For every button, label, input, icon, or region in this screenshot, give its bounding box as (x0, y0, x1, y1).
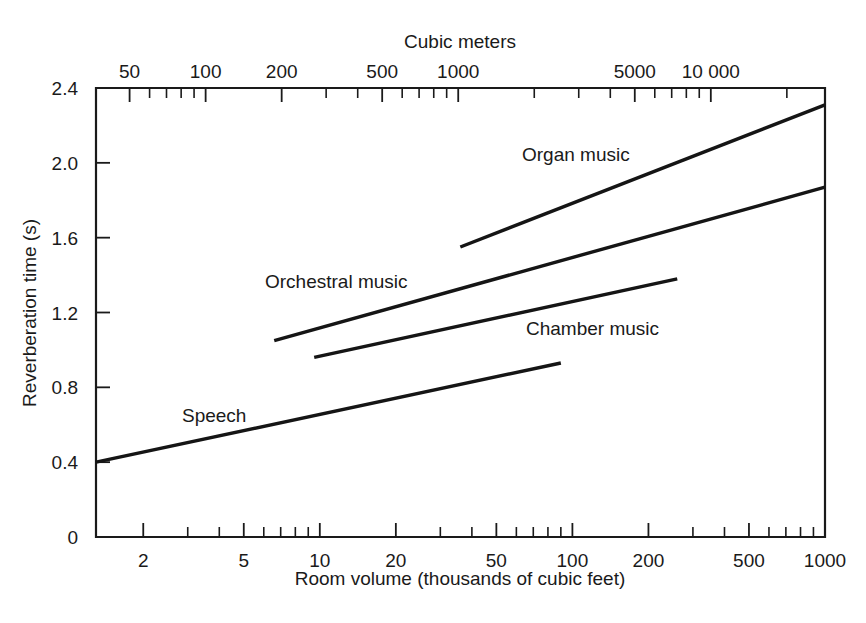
y-tick-label: 0.4 (52, 452, 79, 473)
top-tick-label: 1000 (437, 61, 479, 82)
top-axis-tick-labels: 501002005001000500010 000 (119, 61, 740, 82)
x-tick-label: 2 (138, 550, 149, 571)
series-line-organ-music (460, 105, 825, 247)
y-axis-title: Reverberation time (s) (19, 219, 40, 407)
top-tick-label: 500 (366, 61, 398, 82)
top-tick-label: 50 (119, 61, 140, 82)
top-tick-label: 5000 (614, 61, 656, 82)
bottom-axis-ticks (143, 523, 825, 537)
axis-frame (96, 88, 825, 537)
y-tick-label: 2.4 (52, 78, 79, 99)
top-tick-label: 200 (266, 61, 298, 82)
y-tick-label: 0 (67, 527, 78, 548)
series-label-chamber: Chamber music (526, 318, 659, 339)
y-tick-label: 1.2 (52, 303, 78, 324)
y-tick-label: 0.8 (52, 377, 78, 398)
series-label-orchestral: Orchestral music (265, 271, 408, 292)
x-tick-label: 200 (633, 550, 665, 571)
y-tick-label: 1.6 (52, 228, 78, 249)
top-axis-ticks (130, 88, 787, 102)
x-axis-title: Room volume (thousands of cubic feet) (295, 568, 626, 589)
y-tick-label: 2.0 (52, 153, 78, 174)
x-tick-label: 5 (238, 550, 249, 571)
chart-container: 501002005001000500010 000 25102050100200… (0, 0, 866, 623)
y-axis-tick-labels: 00.40.81.21.62.02.4 (52, 78, 79, 548)
series-label-organ: Organ music (522, 144, 630, 165)
series-line-speech (96, 363, 561, 462)
x-tick-label: 500 (733, 550, 765, 571)
series-label-speech: Speech (182, 405, 246, 426)
top-tick-label: 10 000 (682, 61, 740, 82)
reverberation-time-chart: 501002005001000500010 000 25102050100200… (0, 0, 866, 623)
y-axis-ticks (96, 163, 110, 462)
top-tick-label: 100 (190, 61, 222, 82)
top-axis-title: Cubic meters (404, 31, 516, 52)
x-tick-label: 1000 (804, 550, 846, 571)
